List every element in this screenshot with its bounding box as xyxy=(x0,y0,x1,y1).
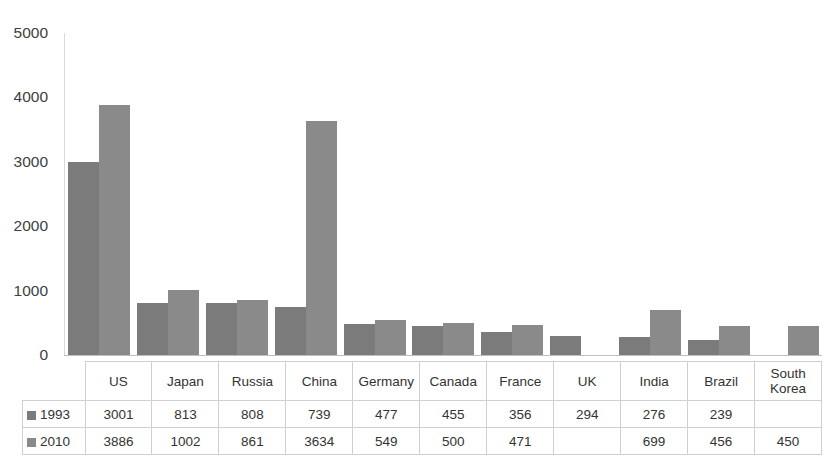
table-cell: 808 xyxy=(219,401,286,428)
table-cell xyxy=(554,428,621,455)
y-tick-2000: 2000 xyxy=(0,218,48,234)
data-table: US Japan Russia China Germany Canada Fra… xyxy=(22,361,822,455)
table-cell xyxy=(755,401,822,428)
bar-canada-1993 xyxy=(412,326,443,355)
bar-germany-1993 xyxy=(344,324,375,355)
bar-groups xyxy=(65,20,822,355)
table-cell: 699 xyxy=(621,428,688,455)
bar-canada-2010 xyxy=(443,323,474,355)
bar-japan-2010 xyxy=(168,290,199,355)
table-cell: 549 xyxy=(353,428,420,455)
bar-group xyxy=(547,20,616,355)
table-col-header: Germany xyxy=(353,362,420,401)
bar-chart-with-data-table: 5000 4000 3000 2000 1000 0 US Japan Russ… xyxy=(0,0,838,472)
bar-group xyxy=(203,20,272,355)
bar-south-korea-2010 xyxy=(788,326,819,355)
table-cell: 356 xyxy=(487,401,554,428)
plot-area xyxy=(64,20,822,356)
table-col-header: Brazil xyxy=(688,362,755,401)
table-cell: 477 xyxy=(353,401,420,428)
bar-india-2010 xyxy=(650,310,681,355)
y-tick-5000: 5000 xyxy=(0,25,48,41)
table-cell: 455 xyxy=(420,401,487,428)
y-tick-4000: 4000 xyxy=(0,89,48,105)
bar-russia-2010 xyxy=(237,300,268,355)
table-col-header: India xyxy=(621,362,688,401)
table-cell: 739 xyxy=(286,401,353,428)
table-cell: 3634 xyxy=(286,428,353,455)
bar-france-1993 xyxy=(481,332,512,355)
table-col-header: South Korea xyxy=(755,362,822,401)
bar-group xyxy=(134,20,203,355)
table-col-header: Japan xyxy=(152,362,219,401)
table-cell: 450 xyxy=(755,428,822,455)
table-cell: 294 xyxy=(554,401,621,428)
bar-brazil-2010 xyxy=(719,326,750,355)
table-col-header: France xyxy=(487,362,554,401)
bar-group xyxy=(753,20,822,355)
table-cell: 1002 xyxy=(152,428,219,455)
table-cell: 813 xyxy=(152,401,219,428)
table-col-header: Russia xyxy=(219,362,286,401)
legend-label: 1993 xyxy=(40,407,70,422)
legend-swatch-icon xyxy=(27,438,36,447)
table-col-header: US xyxy=(85,362,152,401)
table-cell: 471 xyxy=(487,428,554,455)
bar-china-1993 xyxy=(275,307,306,355)
bar-india-1993 xyxy=(619,337,650,355)
bar-group xyxy=(271,20,340,355)
y-tick-1000: 1000 xyxy=(0,283,48,299)
bar-brazil-1993 xyxy=(688,340,719,355)
bar-group xyxy=(65,20,134,355)
table-row: 2010 3886 1002 861 3634 549 500 471 699 … xyxy=(23,428,822,455)
bar-group xyxy=(616,20,685,355)
bar-group xyxy=(478,20,547,355)
bar-germany-2010 xyxy=(375,320,406,355)
table-cell: 861 xyxy=(219,428,286,455)
bar-us-2010 xyxy=(99,105,130,355)
bar-group xyxy=(409,20,478,355)
legend-label: 2010 xyxy=(40,434,70,449)
legend-entry-2010: 2010 xyxy=(23,428,86,455)
table-cell: 500 xyxy=(420,428,487,455)
bar-us-1993 xyxy=(68,162,99,355)
bar-group xyxy=(340,20,409,355)
table-header-row: US Japan Russia China Germany Canada Fra… xyxy=(23,362,822,401)
legend-swatch-icon xyxy=(27,411,36,420)
x-axis-line xyxy=(64,355,822,356)
y-tick-3000: 3000 xyxy=(0,154,48,170)
table-col-header: Canada xyxy=(420,362,487,401)
table-cell: 239 xyxy=(688,401,755,428)
table-cell: 276 xyxy=(621,401,688,428)
table-col-header: China xyxy=(286,362,353,401)
table-col-header: UK xyxy=(554,362,621,401)
bar-uk-1993 xyxy=(550,336,581,355)
bar-japan-1993 xyxy=(137,303,168,355)
y-axis-labels: 5000 4000 3000 2000 1000 0 xyxy=(0,20,58,356)
table-cell: 3001 xyxy=(85,401,152,428)
bar-china-2010 xyxy=(306,121,337,355)
bar-france-2010 xyxy=(512,325,543,355)
table-row: 1993 3001 813 808 739 477 455 356 294 27… xyxy=(23,401,822,428)
legend-entry-1993: 1993 xyxy=(23,401,86,428)
table-corner-cell xyxy=(23,362,86,401)
bar-russia-1993 xyxy=(206,303,237,355)
bar-group xyxy=(684,20,753,355)
table-cell: 456 xyxy=(688,428,755,455)
table-cell: 3886 xyxy=(85,428,152,455)
